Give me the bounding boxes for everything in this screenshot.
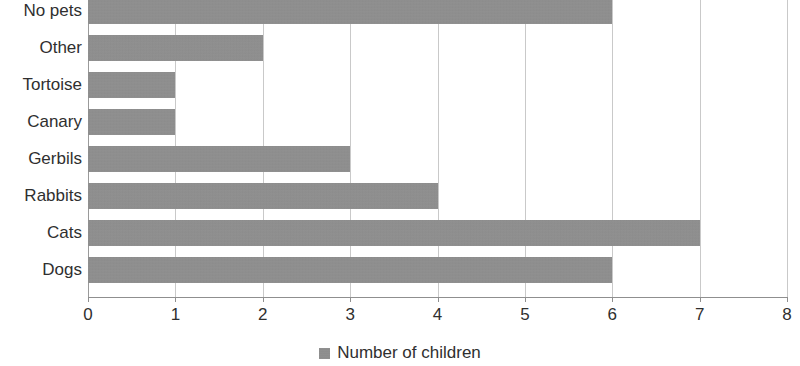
bar-cats	[88, 220, 700, 246]
x-tickmark-2	[263, 297, 264, 302]
y-axis-label-other: Other	[0, 39, 82, 56]
bar-gerbils	[88, 146, 350, 172]
bar-row	[88, 0, 787, 24]
x-tickmark-6	[612, 297, 613, 302]
x-tickmark-0	[88, 297, 89, 302]
x-tick-label-0: 0	[68, 305, 108, 324]
bar-tortoise	[88, 72, 175, 98]
x-tick-label-5: 5	[505, 305, 545, 324]
x-tick-label-1: 1	[155, 305, 195, 324]
x-tick-label-4: 4	[418, 305, 458, 324]
bar-rabbits	[88, 183, 438, 209]
y-axis-label-dogs: Dogs	[0, 261, 82, 278]
bar-row	[88, 220, 787, 246]
x-tick-label-8: 8	[767, 305, 800, 324]
x-tick-label-2: 2	[243, 305, 283, 324]
legend-swatch-number-of-children	[319, 348, 330, 359]
y-axis-label-rabbits: Rabbits	[0, 187, 82, 204]
bar-chart: No petsOtherTortoiseCanaryGerbilsRabbits…	[0, 0, 800, 366]
x-tick-label-3: 3	[330, 305, 370, 324]
gridline-8	[787, 0, 788, 297]
bar-row	[88, 35, 787, 61]
y-axis-category-labels: No petsOtherTortoiseCanaryGerbilsRabbits…	[0, 0, 82, 297]
y-axis-label-canary: Canary	[0, 113, 82, 130]
x-tickmark-4	[438, 297, 439, 302]
y-axis-label-gerbils: Gerbils	[0, 150, 82, 167]
y-axis-label-tortoise: Tortoise	[0, 76, 82, 93]
x-tickmark-7	[700, 297, 701, 302]
x-tickmark-8	[787, 297, 788, 302]
bar-row	[88, 183, 787, 209]
y-axis-label-no-pets: No pets	[0, 2, 82, 19]
x-tick-label-7: 7	[680, 305, 720, 324]
bar-dogs	[88, 257, 612, 283]
chart-legend: Number of children	[0, 343, 800, 362]
bar-row	[88, 72, 787, 98]
x-tickmark-5	[525, 297, 526, 302]
bar-other	[88, 35, 263, 61]
x-tickmark-1	[175, 297, 176, 302]
legend-label-number-of-children: Number of children	[337, 343, 481, 362]
x-tick-label-6: 6	[592, 305, 632, 324]
bar-canary	[88, 109, 175, 135]
y-axis-label-cats: Cats	[0, 224, 82, 241]
bar-row	[88, 146, 787, 172]
plot-area	[88, 0, 787, 297]
bar-row	[88, 109, 787, 135]
bar-row	[88, 257, 787, 283]
x-tickmark-3	[350, 297, 351, 302]
bar-no-pets	[88, 0, 612, 24]
